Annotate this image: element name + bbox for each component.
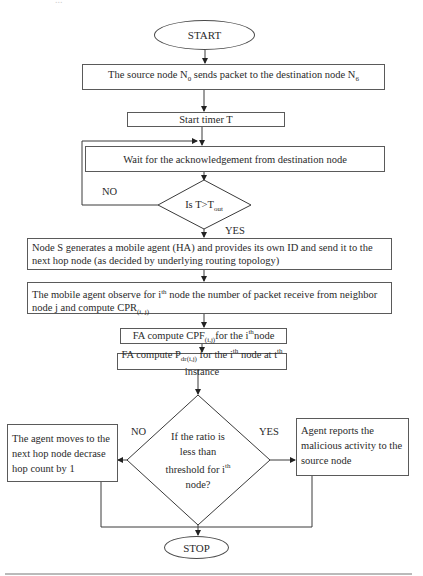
generate-agent-text: Node S generates a mobile agent (HA) and… [32,242,373,266]
cropped-header-text: ... [55,0,63,5]
stop-terminal: STOP [164,536,229,559]
report-step: Agent reports the malicious activity to … [296,418,409,476]
threshold-decision-text: If the ratio is less than threshold for … [150,429,246,492]
observe-step: The mobile agent observe for ith node th… [27,282,392,314]
observe-text: The mobile agent observe for ith node th… [32,289,377,313]
wait-ack-text: Wait for the acknowledgement from destin… [123,153,347,166]
report-text: Agent reports the malicious activity to … [301,425,402,466]
threshold-yes-label: YES [259,426,279,437]
start-label: START [188,29,221,41]
send-packet-text: The source node N0 sends packet to the d… [108,68,359,86]
move-next-text: The agent moves to the next hop node dec… [12,433,110,474]
start-timer-text: Start timer T [179,113,232,126]
stop-label: STOP [183,542,210,554]
generate-agent-step: Node S generates a mobile agent (HA) and… [27,238,392,270]
timeout-decision-text: Is T>Tout [170,197,238,217]
compute-cpf-step: FA compute CPF(i,j)for the ithnode [120,328,287,344]
timeout-yes-label: YES [225,225,245,236]
threshold-no-label: NO [131,426,146,437]
compute-cpf-text: FA compute CPF(i,j)for the ithnode [133,326,275,347]
move-next-step: The agent moves to the next hop node dec… [7,424,118,482]
wait-ack-step: Wait for the acknowledgement from destin… [85,146,385,172]
start-terminal: START [154,20,255,50]
compute-pdr-text: FA compute Pdr(i,j) for the ith node at … [118,345,286,379]
start-timer-step: Start timer T [127,112,285,127]
send-packet-step: The source node N0 sends packet to the d… [82,64,385,90]
timeout-no-label: NO [102,186,117,197]
compute-pdr-step: FA compute Pdr(i,j) for the ith node at … [117,353,287,370]
flowchart: ... START The source node N0 sends packe… [0,0,423,576]
